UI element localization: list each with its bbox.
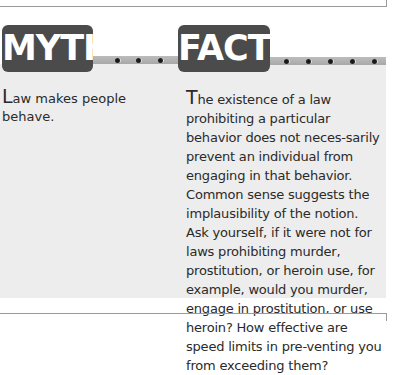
bottom-rule xyxy=(0,313,387,314)
myth-statement: Law makes people behave. xyxy=(2,90,172,126)
myth-body: aw makes people behave. xyxy=(2,91,126,124)
strip-dot-icon xyxy=(328,59,334,64)
top-rule xyxy=(0,6,387,7)
strip-dot-icon xyxy=(372,59,378,64)
myth-dotted-strip xyxy=(93,56,178,64)
fact-statement: The existence of a law prohibiting a par… xyxy=(186,90,382,375)
fact-body: he existence of a law prohibiting a part… xyxy=(186,92,382,373)
strip-dot-icon xyxy=(284,59,290,64)
myth-dropcap: L xyxy=(2,85,13,107)
fact-dropcap: T xyxy=(186,86,197,108)
fact-dotted-strip xyxy=(270,57,386,65)
strip-dot-icon xyxy=(306,59,312,64)
strip-dot-icon xyxy=(115,58,121,63)
myth-badge: MYTH xyxy=(2,25,93,72)
strip-dot-icon xyxy=(350,59,356,64)
top-rule-corner xyxy=(386,0,387,7)
bottom-rule-corner xyxy=(386,313,387,321)
strip-dot-icon xyxy=(136,58,142,63)
fact-badge: FACT xyxy=(178,25,270,72)
strip-dot-icon xyxy=(158,58,164,63)
